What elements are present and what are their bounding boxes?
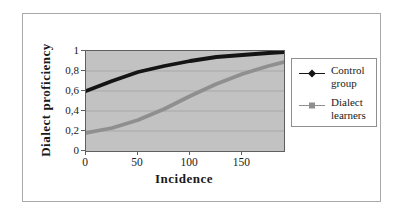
legend-entry: Dialect learners bbox=[297, 96, 373, 121]
x-tick-mark bbox=[137, 151, 138, 155]
x-tick-label: 100 bbox=[172, 156, 206, 169]
legend: Control groupDialect learners bbox=[291, 58, 377, 127]
y-tick-mark bbox=[81, 110, 85, 111]
y-tick-mark bbox=[81, 70, 85, 71]
x-tick-mark bbox=[189, 151, 190, 155]
x-tick-label: 50 bbox=[120, 156, 154, 169]
x-tick-mark bbox=[241, 151, 242, 155]
diamond-marker-icon bbox=[297, 65, 331, 83]
x-tick-mark bbox=[85, 151, 86, 155]
y-tick-mark bbox=[81, 130, 85, 131]
y-tick-label: 0,4 bbox=[49, 104, 79, 117]
square-marker-icon bbox=[297, 97, 331, 115]
series-line-dialect-learners bbox=[86, 62, 284, 133]
curves-canvas bbox=[86, 51, 284, 151]
legend-entry: Control group bbox=[297, 64, 373, 89]
x-axis-title: Incidence bbox=[155, 171, 213, 187]
chart-figure: Dialect proficiency 10,80,60,40,20 05010… bbox=[0, 0, 403, 217]
x-tick-label: 0 bbox=[68, 156, 102, 169]
y-tick-mark bbox=[81, 50, 85, 51]
legend-label: Control group bbox=[331, 64, 373, 89]
y-tick-mark bbox=[81, 90, 85, 91]
y-axis-title: Dialect proficiency bbox=[38, 43, 54, 157]
y-tick-label: 0,6 bbox=[49, 84, 79, 97]
y-tick-label: 0,2 bbox=[49, 124, 79, 137]
plot-area bbox=[85, 50, 285, 152]
y-tick-label: 1 bbox=[49, 44, 79, 57]
y-tick-label: 0 bbox=[49, 144, 79, 157]
x-tick-label: 150 bbox=[224, 156, 258, 169]
legend-label: Dialect learners bbox=[331, 96, 373, 121]
y-tick-label: 0,8 bbox=[49, 64, 79, 77]
